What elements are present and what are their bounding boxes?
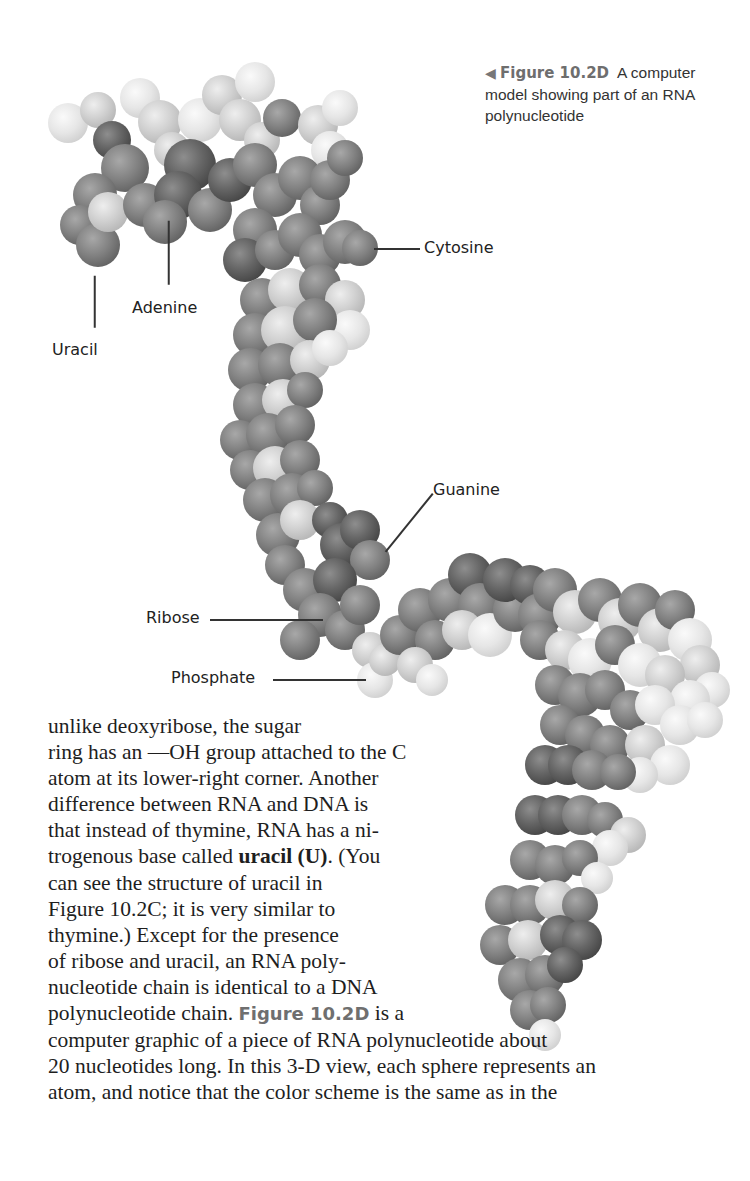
text-line: ring has an —OH group attached to the C [48, 739, 748, 765]
text-line: of ribose and uracil, an RNA poly- [48, 948, 748, 974]
atom-sphere [263, 99, 301, 137]
caption-line-3: polynucleotide [485, 107, 584, 124]
atom-sphere [275, 405, 315, 445]
text-segment: is a [369, 1001, 404, 1025]
caption-line-1: A computer [617, 64, 695, 81]
label-phosphate: Phosphate [171, 668, 255, 687]
text-segment: . (You [327, 844, 380, 868]
label-uracil: Uracil [52, 340, 98, 359]
text-line: atom at its lower-right corner. Another [48, 765, 748, 791]
atom-sphere [88, 192, 128, 232]
atom-sphere [416, 664, 448, 696]
label-cytosine: Cytosine [424, 238, 493, 257]
leader-line-ribose [210, 619, 323, 621]
text-segment: polynucleotide chain. [48, 1001, 238, 1025]
figure-number: Figure 10.2D [500, 64, 609, 82]
atom-sphere [322, 90, 358, 126]
figure-caption: ◀Figure 10.2DA computer model showing pa… [485, 62, 745, 126]
textbook-page: UracilAdenineCytosineGuanineRibosePhosph… [0, 0, 750, 1181]
text-line: that instead of thymine, RNA has a ni- [48, 817, 748, 843]
caption-arrow-icon: ◀ [485, 65, 496, 81]
atom-sphere [143, 200, 187, 244]
text-line: atom, and notice that the color scheme i… [48, 1079, 748, 1105]
text-line: can see the structure of uracil in [48, 870, 748, 896]
label-ribose: Ribose [146, 608, 200, 627]
leader-line-adenine [168, 221, 170, 285]
label-guanine: Guanine [433, 480, 500, 499]
atom-sphere [287, 372, 323, 408]
key-term-uracil: uracil (U) [238, 844, 327, 868]
text-line: difference between RNA and DNA is [48, 791, 748, 817]
text-line: trogenous base called uracil (U). (You [48, 843, 748, 869]
text-line: computer graphic of a piece of RNA polyn… [48, 1027, 748, 1053]
leader-line-uracil [94, 276, 96, 328]
text-line: polynucleotide chain. Figure 10.2D is a [48, 1000, 748, 1027]
atom-sphere [280, 620, 320, 660]
atom-sphere [312, 330, 348, 366]
text-line: 20 nucleotides long. In this 3-D view, e… [48, 1053, 748, 1079]
text-line: nucleotide chain is identical to a DNA [48, 974, 748, 1000]
leader-line-cytosine [374, 248, 420, 250]
text-line: thymine.) Except for the presence [48, 922, 748, 948]
leader-line-phosphate [273, 679, 366, 681]
text-line: Figure 10.2C; it is very similar to [48, 896, 748, 922]
text-segment: trogenous base called [48, 844, 238, 868]
atom-sphere [235, 62, 275, 102]
figure-reference-link[interactable]: Figure 10.2D [238, 1003, 369, 1024]
atom-sphere [342, 230, 378, 266]
text-line: unlike deoxyribose, the sugar [48, 713, 748, 739]
label-adenine: Adenine [132, 298, 197, 317]
atom-sphere [327, 140, 363, 176]
body-paragraph: unlike deoxyribose, the sugar ring has a… [48, 713, 748, 1105]
atom-sphere [340, 585, 380, 625]
caption-line-2: model showing part of an RNA [485, 86, 695, 103]
